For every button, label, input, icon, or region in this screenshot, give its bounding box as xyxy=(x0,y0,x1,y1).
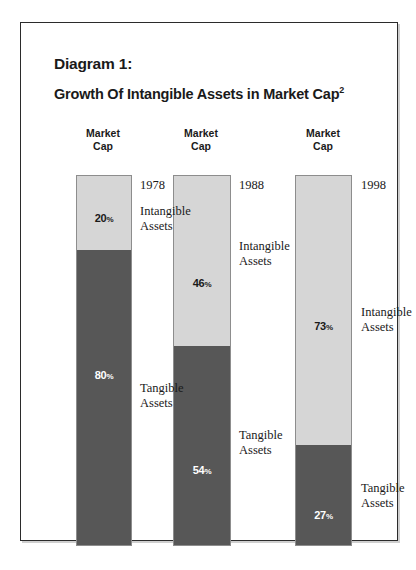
percent-sign: % xyxy=(326,323,333,332)
legend-label-line2: Assets xyxy=(361,320,412,335)
column-header-line2: Cap xyxy=(288,140,358,153)
percent-sign: % xyxy=(106,215,113,224)
year-label-1998: 1998 xyxy=(361,178,386,193)
column-header-1988: Market Cap xyxy=(166,127,236,153)
column-header-1998: Market Cap xyxy=(288,127,358,153)
legend-label-line2: Assets xyxy=(140,396,184,411)
bar-segment-tangible: 54% xyxy=(174,346,230,545)
year-label-1988: 1988 xyxy=(239,178,264,193)
legend-label-intangible-1978: Intangible Assets xyxy=(140,204,191,234)
bar-segment-value: 27% xyxy=(314,510,332,521)
footnote-marker: 2 xyxy=(339,85,344,95)
bar-segment-value: 73% xyxy=(314,321,332,332)
bar-segment-intangible: 46% xyxy=(174,176,230,346)
diagram-figure: Diagram 1: Growth Of Intangible Assets i… xyxy=(0,0,416,570)
bar-segment-tangible: 27% xyxy=(296,445,351,545)
column-header-line2: Cap xyxy=(166,140,236,153)
legend-label-line1: Tangible xyxy=(239,428,283,443)
legend-label-tangible-1978: Tangible Assets xyxy=(140,381,184,411)
diagram-number-title: Diagram 1: xyxy=(54,55,132,73)
legend-label-tangible-1998: Tangible Assets xyxy=(361,481,405,511)
bar-segment-value: 20% xyxy=(95,213,113,224)
legend-label-line2: Assets xyxy=(239,254,290,269)
legend-label-line2: Assets xyxy=(140,219,191,234)
bar-segment-tangible: 80% xyxy=(77,250,131,545)
bar-segment-value: 46% xyxy=(193,278,211,289)
percent-sign: % xyxy=(204,467,211,476)
page-title-text: Growth Of Intangible Assets in Market Ca… xyxy=(54,86,339,102)
year-label-1978: 1978 xyxy=(140,178,165,193)
column-header-line2: Cap xyxy=(68,140,138,153)
figure-frame: Diagram 1: Growth Of Intangible Assets i… xyxy=(20,22,398,541)
legend-label-intangible-1988: Intangible Assets xyxy=(239,239,290,269)
bar-segment-intangible: 20% xyxy=(77,176,131,250)
legend-label-line2: Assets xyxy=(361,496,405,511)
column-header-1978: Market Cap xyxy=(68,127,138,153)
column-header-line1: Market xyxy=(166,127,236,140)
legend-label-line1: Tangible xyxy=(361,481,405,496)
legend-label-line1: Intangible xyxy=(361,305,412,320)
stacked-bar-1998: 73% 27% xyxy=(295,175,352,546)
legend-label-line1: Tangible xyxy=(140,381,184,396)
bar-segment-intangible: 73% xyxy=(296,176,351,445)
column-header-line1: Market xyxy=(68,127,138,140)
diagram-number-title-text: Diagram 1: xyxy=(54,55,132,72)
bar-segment-value: 54% xyxy=(193,465,211,476)
legend-label-tangible-1988: Tangible Assets xyxy=(239,428,283,458)
legend-label-line1: Intangible xyxy=(140,204,191,219)
legend-label-intangible-1998: Intangible Assets xyxy=(361,305,412,335)
column-header-line1: Market xyxy=(288,127,358,140)
legend-label-line2: Assets xyxy=(239,443,283,458)
bar-segment-value: 80% xyxy=(95,370,113,381)
stacked-bar-1978: 20% 80% xyxy=(76,175,132,546)
percent-sign: % xyxy=(106,372,113,381)
legend-label-line1: Intangible xyxy=(239,239,290,254)
percent-sign: % xyxy=(204,280,211,289)
percent-sign: % xyxy=(326,512,333,521)
page-title: Growth Of Intangible Assets in Market Ca… xyxy=(54,85,344,102)
